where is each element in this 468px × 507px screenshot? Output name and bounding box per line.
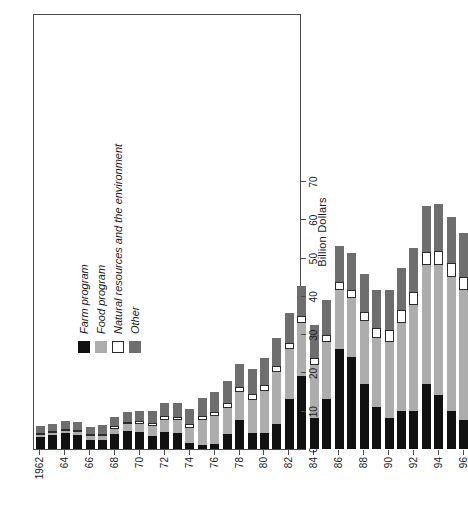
bar-94 bbox=[434, 181, 443, 449]
segment-other bbox=[123, 412, 132, 422]
value-tick bbox=[301, 181, 306, 182]
segment-natural-resources bbox=[86, 434, 95, 436]
category-tick bbox=[39, 450, 40, 455]
bar-82 bbox=[285, 181, 294, 449]
segment-food-program bbox=[372, 338, 381, 407]
category-tick-label-70: 70 bbox=[133, 457, 144, 468]
segment-other bbox=[385, 290, 394, 330]
category-tick bbox=[189, 450, 190, 455]
segment-food-program bbox=[135, 424, 144, 432]
bar-81 bbox=[272, 181, 281, 449]
bar-72 bbox=[160, 181, 169, 449]
legend-item-other: Other bbox=[129, 144, 141, 353]
category-tick-label-68: 68 bbox=[108, 457, 119, 468]
segment-food-program bbox=[260, 391, 269, 432]
segment-farm-program bbox=[360, 384, 369, 449]
category-tick bbox=[263, 450, 264, 455]
category-tick bbox=[363, 450, 364, 455]
segment-other bbox=[248, 369, 257, 394]
legend-label: Farm program bbox=[78, 264, 90, 334]
category-tick bbox=[164, 450, 165, 455]
bar-71 bbox=[148, 181, 157, 449]
segment-natural-resources bbox=[160, 416, 169, 419]
segment-food-program bbox=[36, 435, 45, 437]
category-tick bbox=[438, 450, 439, 455]
segment-food-program bbox=[422, 265, 431, 384]
segment-other bbox=[223, 381, 232, 402]
segment-farm-program bbox=[148, 436, 157, 449]
legend-item-natural-resources: Natural resources and the environment bbox=[112, 144, 124, 353]
segment-food-program bbox=[459, 290, 468, 420]
segment-farm-program bbox=[409, 411, 418, 449]
segment-natural-resources bbox=[173, 417, 182, 420]
segment-natural-resources bbox=[285, 343, 294, 350]
segment-other bbox=[335, 246, 344, 282]
segment-other bbox=[285, 313, 294, 343]
segment-natural-resources bbox=[347, 290, 356, 298]
value-axis-title: Billion Dollars bbox=[316, 14, 328, 450]
segment-other bbox=[36, 426, 45, 434]
value-tick bbox=[301, 258, 306, 259]
value-axis: 010203040506070 bbox=[301, 14, 302, 450]
segment-natural-resources bbox=[335, 282, 344, 290]
segment-other bbox=[260, 358, 269, 386]
segment-farm-program bbox=[110, 434, 119, 449]
segment-other bbox=[173, 403, 182, 417]
category-tick-label-90: 90 bbox=[383, 457, 394, 468]
segment-food-program bbox=[272, 372, 281, 424]
segment-farm-program bbox=[123, 431, 132, 449]
segment-farm-program bbox=[86, 440, 95, 449]
solid-black-swatch bbox=[78, 341, 90, 353]
segment-food-program bbox=[235, 392, 244, 420]
category-tick-label-96: 96 bbox=[457, 457, 468, 468]
category-tick bbox=[413, 450, 414, 455]
segment-natural-resources bbox=[98, 434, 107, 436]
segment-farm-program bbox=[335, 349, 344, 449]
category-tick-label-74: 74 bbox=[183, 457, 194, 468]
category-tick-label-88: 88 bbox=[358, 457, 369, 468]
value-tick bbox=[301, 219, 306, 220]
segment-other bbox=[272, 338, 281, 367]
bar-96 bbox=[459, 181, 468, 449]
legend-label: Food program bbox=[95, 265, 107, 334]
segment-food-program bbox=[61, 431, 70, 433]
segment-food-program bbox=[73, 432, 82, 435]
segment-natural-resources bbox=[235, 387, 244, 392]
segment-food-program bbox=[148, 426, 157, 436]
segment-other bbox=[409, 248, 418, 292]
segment-farm-program bbox=[347, 357, 356, 449]
category-tick-label-82: 82 bbox=[283, 457, 294, 468]
bar-90 bbox=[385, 181, 394, 449]
segment-other bbox=[434, 204, 443, 252]
category-tick-label-66: 66 bbox=[84, 457, 95, 468]
category-tick-label-80: 80 bbox=[258, 457, 269, 468]
segment-other bbox=[135, 411, 144, 422]
segment-natural-resources bbox=[447, 263, 456, 276]
value-tick bbox=[301, 449, 306, 450]
segment-other bbox=[61, 421, 70, 429]
segment-other bbox=[347, 253, 356, 289]
segment-food-program bbox=[98, 436, 107, 440]
segment-natural-resources bbox=[110, 426, 119, 428]
category-tick-label-1962: 1962 bbox=[34, 457, 45, 479]
segment-other bbox=[198, 398, 207, 416]
category-tick-label-94: 94 bbox=[432, 457, 443, 468]
bar-92 bbox=[409, 181, 418, 449]
segment-farm-program bbox=[434, 395, 443, 449]
value-tick bbox=[301, 334, 306, 335]
plot-area: Farm programFood programNatural resource… bbox=[33, 14, 301, 450]
segment-food-program bbox=[86, 436, 95, 439]
segment-natural-resources bbox=[48, 431, 57, 433]
segment-food-program bbox=[48, 433, 57, 435]
segment-farm-program bbox=[173, 433, 182, 449]
segment-farm-program bbox=[397, 411, 406, 449]
bar-91 bbox=[397, 181, 406, 449]
segment-natural-resources bbox=[434, 251, 443, 265]
segment-food-program bbox=[123, 425, 132, 431]
segment-natural-resources bbox=[397, 310, 406, 322]
chart-legend: Farm programFood programNatural resource… bbox=[78, 144, 141, 353]
segment-other bbox=[110, 417, 119, 426]
segment-natural-resources bbox=[422, 252, 431, 265]
category-axis: 19626466687072747678808284868890929496 bbox=[33, 449, 301, 450]
